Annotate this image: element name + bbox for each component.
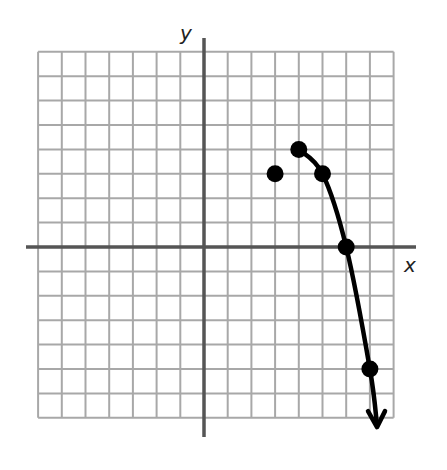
curve-line [299,149,377,425]
data-point [290,141,307,158]
data-point [361,361,378,378]
coordinate-plane: y x [0,0,447,470]
data-series [267,141,385,427]
data-point [338,239,355,256]
y-axis-label: y [179,21,193,45]
grid-lines [38,52,394,418]
data-point [314,165,331,182]
x-axis-label: x [403,253,416,277]
data-point-isolated [267,165,284,182]
